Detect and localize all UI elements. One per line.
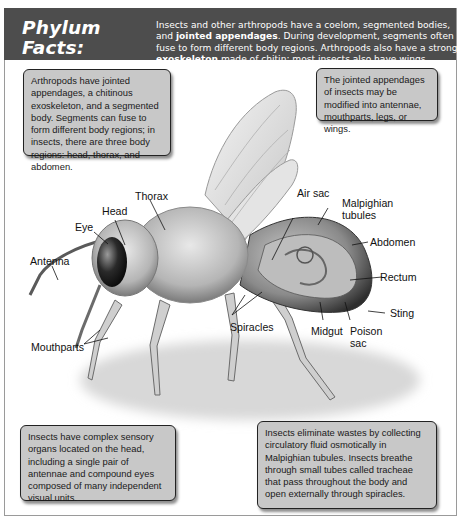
label-poison-line1: Poison bbox=[350, 325, 382, 337]
label-malpighian: Malpighiantubules bbox=[342, 197, 393, 221]
label-sting: Sting bbox=[390, 307, 414, 319]
label-thorax: Thorax bbox=[135, 190, 168, 202]
label-poison-sac: Poisonsac bbox=[350, 325, 382, 349]
label-antenna: Antenna bbox=[30, 255, 69, 267]
callout-sensory-organs: Insects have complex sensory organs loca… bbox=[20, 425, 176, 501]
callout-excretion-respiration: Insects eliminate wastes by collecting c… bbox=[257, 421, 437, 509]
label-rectum: Rectum bbox=[380, 271, 417, 283]
label-head: Head bbox=[102, 205, 127, 217]
label-midgut: Midgut bbox=[311, 325, 343, 337]
label-spiracles: Spiracles bbox=[230, 321, 274, 333]
compound-eye bbox=[97, 237, 127, 287]
label-malpighian-line2: tubules bbox=[342, 209, 393, 221]
callout-body-plan: Arthropods have jointed appendages, a ch… bbox=[23, 69, 171, 156]
label-abdomen: Abdomen bbox=[370, 236, 415, 248]
label-poison-line2: sac bbox=[350, 337, 382, 349]
label-malpighian-line1: Malpighian bbox=[342, 197, 393, 209]
label-mouthparts: Mouthparts bbox=[31, 341, 84, 353]
callout-appendages: The jointed appendages of insects may be… bbox=[316, 68, 438, 121]
shadow bbox=[80, 340, 420, 420]
label-air-sac: Air sac bbox=[297, 187, 329, 199]
label-eye: Eye bbox=[75, 221, 93, 233]
